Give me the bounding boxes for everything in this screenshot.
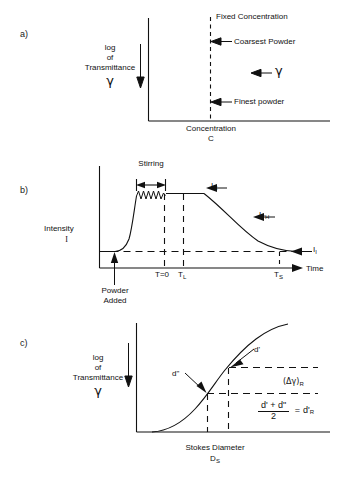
panel-a-y-axis-line2: of [78, 53, 142, 63]
panel-c-x-axis-symbol-base: D [210, 454, 216, 463]
panel-b-stirring-zigzag [137, 191, 166, 199]
panel-b-t-l-label: TL [178, 270, 186, 281]
panel-b-ith-label: ITH [259, 210, 269, 221]
panel-c-x-axis-symbol-subscript: S [216, 458, 220, 464]
panel-b-ii-subscript: I [315, 249, 317, 255]
panel-b-stirring-arrow-head-left [136, 182, 145, 189]
panel-b-ii-label: II [313, 245, 317, 256]
panel-a-gamma-label: γ [275, 66, 283, 76]
panel-c-formula-numerator: d' + d" [258, 401, 289, 412]
panel-b-t-s-subscript: S [279, 274, 283, 280]
panel-c-formula-denominator: 2 [258, 412, 289, 422]
panel-b-powder-added-line2: Added [90, 296, 140, 306]
panel-b-powder-added-arrow-head [111, 252, 118, 263]
panel-a-y-axis-symbol: γ [78, 76, 142, 86]
panel-b-x-axis-title: Time [306, 264, 323, 274]
panel-c-y-axis-line3: Transmittance [56, 373, 140, 383]
panel-c-y-axis-line1: log [66, 353, 130, 363]
panel-a-x-axis-title: Concentration [166, 124, 256, 134]
panel-b-ith-subscript: TH [261, 214, 269, 220]
panel-b-stirring-arrow-head-right [157, 182, 166, 189]
panel-c-formula-fraction: d' + d" 2 [258, 401, 289, 421]
panel-a-finest-arrow-head [211, 98, 221, 105]
panel-a-finest-powder-label: Finest powder [234, 97, 284, 107]
panel-c-delta-gamma-base: (Δγ) [283, 377, 299, 386]
panel-c-y-axis-symbol: γ [66, 386, 130, 396]
panel-b-rise-curve [100, 196, 137, 252]
figure-root: a) Fixed Concentration [0, 0, 338, 480]
panel-b-stirring-label: Stirring [120, 159, 182, 169]
panel-a-fixed-concentration-label: Fixed Concentration [216, 12, 288, 22]
panel-a-y-axis-line1: log [78, 43, 142, 53]
panel-c-formula-result: d' [300, 406, 310, 416]
panel-c-delta-gamma-label: (Δγ)R [283, 377, 304, 388]
panel-c-d-prime-arrow-head [230, 360, 244, 368]
panel-b-y-axis-symbol: I [44, 235, 89, 245]
panel-a-coarsest-powder-label: Coarsest Powder [234, 37, 295, 47]
panel-b-t-s-label: TS [274, 270, 283, 281]
panel-b-ic-subscript: C [213, 185, 217, 191]
panel-b-t-l-subscript: L [183, 274, 186, 280]
panel-b-decay-curve [204, 194, 296, 252]
panel-b-ic-label: IC [211, 181, 218, 192]
panel-c-x-axis-symbol: DS [155, 454, 275, 465]
panel-c-x-axis-title: Stokes Diameter [155, 443, 275, 453]
panel-c-delta-gamma-subscript: R [299, 381, 303, 387]
panel-c-d-double-prime-label: d" [172, 369, 179, 379]
panel-b-t-zero-label: T=0 [155, 270, 169, 280]
panel-a-y-axis-line3: Transmittance [68, 63, 152, 73]
panel-c-d-prime-label: d' [254, 345, 260, 355]
panel-c-d-double-prime-arrow-head [197, 382, 207, 394]
panel-c-formula: d' + d" 2 =d'R [258, 401, 314, 421]
panel-a-gamma-arrow-head [251, 69, 261, 76]
panel-c-y-axis-line2: of [66, 363, 130, 373]
panel-a-x-axis-symbol: C [166, 134, 256, 144]
panel-b-powder-added-line1: Powder [90, 286, 140, 296]
panel-c-formula-equals: = [292, 406, 300, 416]
panel-a-coarsest-arrow-head [211, 38, 221, 45]
panel-b-ii-arrow-head [291, 248, 302, 256]
panel-b-y-axis-line1: Intensity [44, 224, 74, 234]
panel-b-x-axis-arrow-head [292, 264, 303, 272]
panel-c-formula-result-subscript: R [310, 409, 314, 415]
